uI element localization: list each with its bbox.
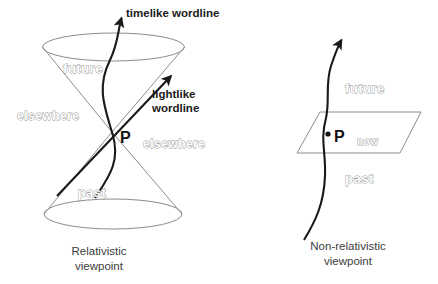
right-now-plane-group: P future now past Non-relativistic viewp… <box>297 40 421 267</box>
right-region-label-now: now <box>357 136 379 147</box>
timelike-worldline-label: timelike wordline <box>126 7 219 19</box>
future-cone-rim-ellipse <box>43 33 185 61</box>
left-region-label-past: past <box>78 185 107 200</box>
timelike-worldline-path <box>95 18 122 198</box>
right-region-label-past: past <box>345 171 374 186</box>
spacetime-diagram: P future past elsewhere elsewhere timeli… <box>0 0 438 284</box>
past-cone-rim-ellipse <box>44 199 182 229</box>
left-region-label-elsewhere-left: elsewhere <box>17 109 80 123</box>
right-event-point-label: P <box>334 128 345 145</box>
left-panel-caption-line2: viewpoint <box>75 260 124 272</box>
left-panel-caption-line1: Relativistic <box>72 245 127 257</box>
left-region-label-elsewhere-right: elsewhere <box>143 137 206 151</box>
left-event-point-label: P <box>120 129 131 146</box>
left-region-label-future: future <box>63 61 103 76</box>
right-region-label-future: future <box>345 81 385 96</box>
figure-canvas: P future past elsewhere elsewhere timeli… <box>0 0 438 284</box>
right-panel-caption-line1: Non-relativistic <box>310 240 386 252</box>
lightlike-worldline-label-line1: lightlike <box>152 88 195 100</box>
right-event-point-dot <box>325 131 330 136</box>
left-light-cone-group: P future past elsewhere elsewhere timeli… <box>17 7 219 272</box>
lightlike-worldline-label-line2: wordline <box>151 102 199 114</box>
right-panel-caption-line2: viewpoint <box>324 255 373 267</box>
